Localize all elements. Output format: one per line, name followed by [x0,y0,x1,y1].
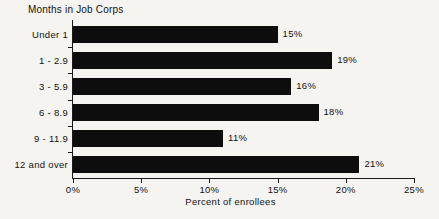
bar-value-label: 18% [324,106,344,117]
bar [73,104,319,121]
bar-row: 15% [73,26,414,43]
bar-value-label: 16% [296,80,316,91]
bar [73,130,223,147]
category-label: 9 - 11.9 [2,133,68,144]
plot-area: 15%19%16%18%11%21% [73,21,414,178]
category-label: Under 1 [2,29,68,40]
bar-row: 11% [73,130,414,147]
category-axis-labels: Under 11 - 2.93 - 5.96 - 8.99 - 11.912 a… [0,21,68,178]
x-axis-tick-label: 25% [404,184,424,195]
x-axis-tick [346,178,347,183]
x-axis-tick-label: 5% [134,184,148,195]
x-axis-tick [141,178,142,183]
bar-row: 16% [73,78,414,95]
bar-chart: Months in Job Corps Under 11 - 2.93 - 5.… [0,0,439,219]
bar [73,156,359,173]
bar-row: 19% [73,52,414,69]
x-axis-tick [73,178,74,183]
bar-row: 21% [73,156,414,173]
category-label: 1 - 2.9 [2,55,68,66]
bar [73,26,278,43]
bar-value-label: 11% [228,132,247,143]
bar [73,78,291,95]
x-axis-tick-label: 10% [199,184,219,195]
y-axis-tick [68,100,73,101]
x-axis-tick-label: 20% [336,184,356,195]
category-label: 6 - 8.9 [2,107,68,118]
bar-value-label: 15% [283,28,303,39]
x-axis-tick-label: 15% [268,184,288,195]
y-axis-tick [68,126,73,127]
category-label: 3 - 5.9 [2,81,68,92]
bar [73,52,332,69]
y-axis-tick [68,152,73,153]
x-axis-tick [209,178,210,183]
bar-value-label: 19% [337,54,357,65]
bar-row: 18% [73,104,414,121]
chart-title: Months in Job Corps [28,4,124,15]
x-axis-tick [414,178,415,183]
x-axis-title-text: Percent of enrollees [185,196,276,207]
y-axis-tick [68,73,73,74]
x-axis-line [72,178,414,179]
bar-value-label: 21% [364,158,384,169]
x-axis-tick [278,178,279,183]
x-axis-tick-label: 0% [66,184,80,195]
x-axis-title: Percent of enrollees [0,196,439,207]
category-label: 12 and over [2,159,68,170]
y-axis-tick [68,47,73,48]
